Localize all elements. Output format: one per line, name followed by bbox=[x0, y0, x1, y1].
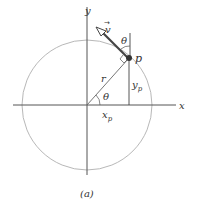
velocity-vector-arrow: → bbox=[104, 19, 110, 27]
circular-motion-diagram: y x v → θ p r θ yp xp (a) bbox=[0, 0, 197, 205]
x-axis-label: x bbox=[179, 100, 185, 111]
radius-label: r bbox=[101, 73, 107, 84]
angle-label-top: θ bbox=[121, 35, 127, 46]
angle-label-origin: θ bbox=[103, 91, 109, 102]
angle-arc-top bbox=[121, 46, 130, 49]
y-component-label: yp bbox=[131, 79, 143, 93]
figure-caption: (a) bbox=[80, 188, 94, 199]
point-label: p bbox=[135, 52, 142, 65]
particle-point bbox=[126, 55, 132, 61]
angle-arc-origin bbox=[96, 95, 100, 105]
y-axis-label: y bbox=[84, 5, 91, 16]
x-component-label: xp bbox=[102, 109, 113, 123]
